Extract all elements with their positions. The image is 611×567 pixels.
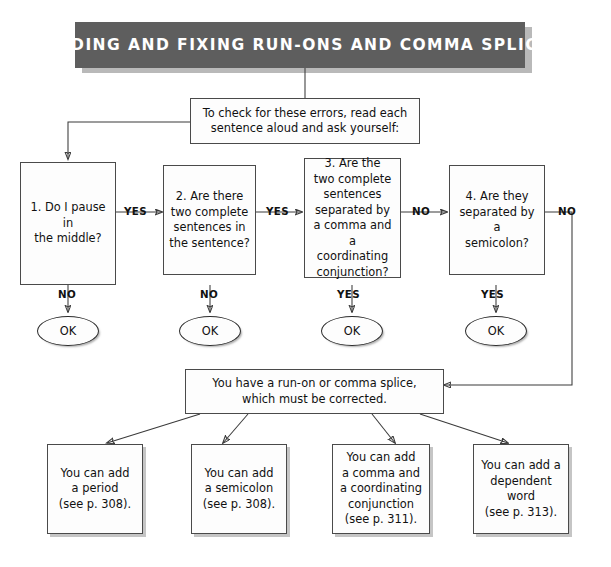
edge-label-q2-no: NO bbox=[200, 288, 218, 300]
edge-intro-to-q1 bbox=[68, 122, 190, 159]
edge-label-q4-no: NO bbox=[558, 205, 576, 217]
remedy-box-3: You can add a comma and a coordinating c… bbox=[332, 444, 430, 534]
terminal-ok-4: OK bbox=[465, 316, 527, 346]
edge-label-q1-no: NO bbox=[58, 288, 76, 300]
edge-verdict-to-remedy-1 bbox=[107, 414, 200, 443]
remedy-box-2: You can add a semicolon (see p. 308). bbox=[191, 444, 287, 534]
edge-verdict-to-remedy-2 bbox=[223, 414, 248, 443]
question-1-text: 1. Do I pause in the middle? bbox=[21, 200, 115, 247]
question-4-text: 4. Are they separated by a semicolon? bbox=[450, 189, 544, 251]
question-2-text: 2. Are there two complete sentences in t… bbox=[164, 189, 255, 251]
remedy-3-text: You can add a comma and a coordinating c… bbox=[335, 450, 427, 528]
terminal-ok-1-text: OK bbox=[60, 324, 76, 338]
terminal-ok-4-text: OK bbox=[488, 324, 504, 338]
terminal-ok-3-text: OK bbox=[344, 324, 360, 338]
intro-text: To check for these errors, read each sen… bbox=[198, 106, 413, 137]
edge-verdict-to-remedy-4 bbox=[420, 414, 508, 443]
terminal-ok-1: OK bbox=[37, 316, 99, 346]
verdict-box: You have a run-on or comma splice, which… bbox=[185, 369, 444, 414]
question-box-3: 3. Are the two complete sentences separa… bbox=[304, 158, 401, 278]
question-box-4: 4. Are they separated by a semicolon? bbox=[449, 165, 545, 275]
remedy-2-text: You can add a semicolon (see p. 308). bbox=[198, 466, 280, 513]
intro-box: To check for these errors, read each sen… bbox=[190, 98, 420, 144]
edge-label-q3-yes: YES bbox=[337, 288, 360, 300]
edge-label-q2-yes: YES bbox=[266, 205, 289, 217]
edge-verdict-to-remedy-3 bbox=[372, 414, 395, 443]
verdict-text: You have a run-on or comma splice, which… bbox=[207, 376, 421, 407]
question-box-2: 2. Are there two complete sentences in t… bbox=[163, 165, 256, 275]
edge-label-q3-no: NO bbox=[412, 205, 430, 217]
header-banner: FINDING AND FIXING RUN-ONS AND COMMA SPL… bbox=[75, 22, 525, 68]
terminal-ok-3: OK bbox=[321, 316, 383, 346]
remedy-4-text: You can add a dependent word (see p. 313… bbox=[476, 458, 565, 520]
remedy-1-text: You can add a period (see p. 308). bbox=[54, 466, 136, 513]
edge-label-q4-yes: YES bbox=[481, 288, 504, 300]
question-box-1: 1. Do I pause in the middle? bbox=[20, 162, 116, 285]
flowchart-page: FINDING AND FIXING RUN-ONS AND COMMA SPL… bbox=[0, 0, 611, 567]
terminal-ok-2-text: OK bbox=[202, 324, 218, 338]
edge-label-q1-yes: YES bbox=[124, 205, 147, 217]
remedy-box-4: You can add a dependent word (see p. 313… bbox=[473, 444, 569, 534]
terminal-ok-2: OK bbox=[179, 316, 241, 346]
remedy-box-1: You can add a period (see p. 308). bbox=[47, 444, 143, 534]
question-3-text: 3. Are the two complete sentences separa… bbox=[305, 156, 400, 280]
page-title: FINDING AND FIXING RUN-ONS AND COMMA SPL… bbox=[37, 36, 562, 54]
